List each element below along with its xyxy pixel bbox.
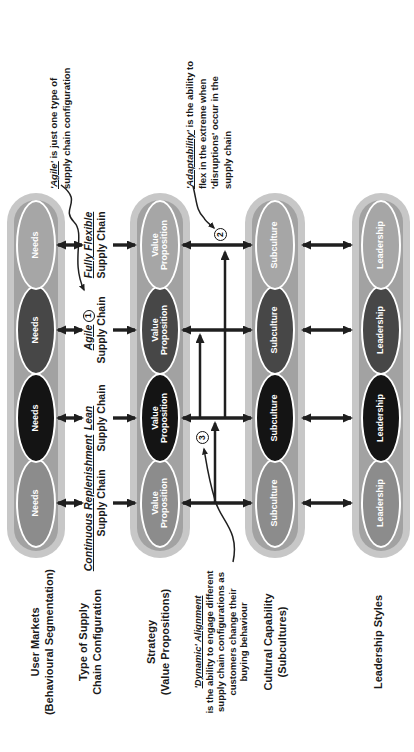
leader-adaptability-annotation — [193, 186, 214, 228]
ellipse-valueprop-continuous: Value Proposition — [140, 458, 180, 548]
screenshot-viewport: User Markets (Behavioural Segmentation) … — [0, 0, 414, 752]
annotation-dynamic-lead: 'Dynamic' Alignment — [192, 596, 203, 689]
label-supply-configuration-line2: Chain Configuration — [91, 562, 105, 722]
ellipse-needs-fully-flexible: Needs — [16, 200, 56, 290]
annotation-adaptability-lead: 'Adaptability' — [184, 130, 195, 189]
label-supply-configuration-line1: Type of Supply — [77, 562, 91, 722]
ellipse-subculture-continuous: Subculture — [255, 458, 295, 548]
label-cultural-capability-line1: Cultural Capability — [262, 562, 276, 722]
dynamic-alignment-diagram: User Markets (Behavioural Segmentation) … — [0, 0, 414, 752]
ellipse-needs-lean: Needs — [16, 373, 56, 463]
label-leadership-styles: Leadership Styles — [372, 562, 386, 722]
ellipse-subculture-agile: Subculture — [255, 285, 295, 375]
label-strategy-line1: Strategy — [145, 562, 159, 722]
ellipse-leadership-lean: Leadership — [361, 373, 401, 463]
annotation-dynamic-alignment: 'Dynamic' Alignment is the ability to en… — [192, 562, 250, 722]
supply-type-fully-flexible: Fully Flexible Supply Chain — [82, 170, 108, 320]
label-cultural-capability: Cultural Capability (Subcultures) — [262, 562, 289, 722]
annotation-dynamic-line5: buying behaviour — [238, 562, 250, 722]
label-user-markets: User Markets (Behavioural Segmentation) — [29, 562, 56, 722]
label-user-markets-line2: (Behavioural Segmentation) — [43, 562, 57, 722]
label-cultural-capability-line2: (Subcultures) — [276, 562, 290, 722]
circled-number-2: 2 — [214, 228, 227, 241]
label-strategy-line2: (Value Propositions) — [159, 562, 173, 722]
ellipse-needs-agile: Needs — [16, 285, 56, 375]
ellipse-leadership-fully-flexible: Leadership — [361, 200, 401, 290]
annotation-adaptability: 'Adaptability' is the ability to flex in… — [184, 37, 234, 189]
ellipse-subculture-fully-flexible: Subculture — [255, 200, 295, 290]
leader-dynamic-annotation — [204, 449, 234, 562]
annotation-adaptability-line4: supply chain — [222, 37, 235, 189]
ellipse-leadership-agile: Leadership — [361, 285, 401, 375]
ellipse-valueprop-fully-flexible: Value Proposition — [140, 200, 180, 290]
annotation-agile-line2: supply chain configuration — [61, 37, 74, 189]
annotation-adaptability-line2: flex in the extreme when — [197, 37, 210, 189]
ellipse-leadership-continuous: Leadership — [361, 458, 401, 548]
annotation-agile-lead: 'Agile' — [48, 161, 59, 189]
ellipse-valueprop-agile: Value Proposition — [140, 285, 180, 375]
label-user-markets-line1: User Markets — [29, 562, 43, 722]
label-supply-configuration: Type of Supply Chain Configuration — [77, 562, 104, 722]
ellipse-valueprop-lean: Value Proposition — [140, 373, 180, 463]
annotation-agile: 'Agile' is just one type of supply chain… — [48, 37, 73, 189]
supply-type-fully-flexible-line2: Supply Chain — [95, 170, 108, 320]
ellipse-needs-continuous: Needs — [16, 458, 56, 548]
label-leadership-styles-line1: Leadership Styles — [372, 562, 386, 722]
annotation-adaptability-line3: 'disruptions' occur in the — [209, 37, 222, 189]
annotation-dynamic-line2: is the ability to engage different — [204, 562, 216, 722]
ellipse-subculture-lean: Subculture — [255, 373, 295, 463]
circled-number-3: 3 — [196, 431, 209, 444]
annotation-dynamic-line3: supply chain configurations as — [215, 562, 227, 722]
label-strategy: Strategy (Value Propositions) — [145, 562, 172, 722]
annotation-dynamic-line4: customers change their — [227, 562, 239, 722]
